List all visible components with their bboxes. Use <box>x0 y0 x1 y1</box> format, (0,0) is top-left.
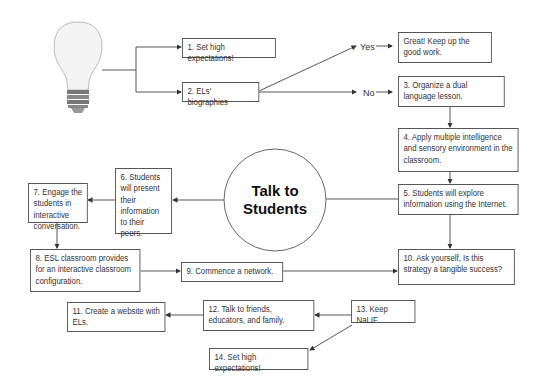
node-8: 8. ESL classroom provides for an interac… <box>30 249 140 292</box>
node-9: 9. Commence a network. <box>181 262 283 282</box>
center-title-line2: Students <box>230 200 320 218</box>
node-1: 1. Set high expectations! <box>182 38 276 58</box>
node-14: 14. Set high expectations! <box>209 348 308 370</box>
yes-label: Yes <box>360 42 375 52</box>
node-great: Great! Keep up the good work. <box>398 32 492 63</box>
node-11: 11. Create a website with ELs. <box>67 302 165 332</box>
node-3: 3. Organize a dual language lesson. <box>398 76 505 107</box>
node-6: 6. Students will present their informati… <box>115 168 172 234</box>
center-title: Talk to Students <box>230 182 320 218</box>
node-2: 2. ELs' biographies <box>182 82 259 102</box>
node-4: 4. Apply multiple intelligence and senso… <box>398 128 519 172</box>
node-13: 13. Keep NaLIF. <box>351 300 415 323</box>
node-7: 7. Engage the students in interactive co… <box>28 183 88 223</box>
node-5: 5. Students will explore information usi… <box>398 184 519 215</box>
no-label: No <box>363 88 375 98</box>
node-12: 12. Talk to friends, educators, and fami… <box>203 300 314 331</box>
center-title-line1: Talk to <box>230 182 320 200</box>
light-bulb-icon <box>54 22 102 113</box>
node-10: 10. Ask yourself, Is this strategy a tan… <box>398 249 515 285</box>
